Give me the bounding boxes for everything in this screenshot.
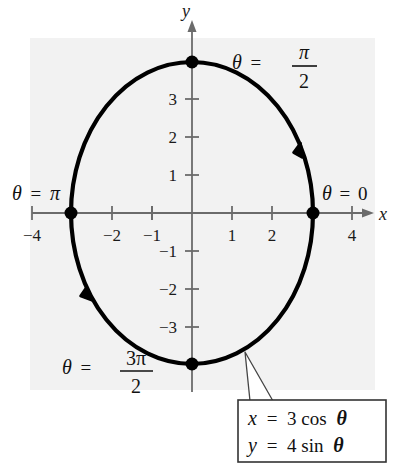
- equals-sign: =: [251, 52, 262, 73]
- equation-x-variable: x: [247, 407, 257, 429]
- theta-0-value: 0: [358, 183, 368, 204]
- x-tick-label--2: −2: [103, 226, 121, 245]
- y-axis-arrowhead: [188, 20, 197, 32]
- y-tick-label-3: 3: [169, 90, 178, 109]
- equation-x-equals: =: [267, 408, 278, 429]
- equals-sign: =: [340, 183, 351, 204]
- equation-y-expression: 4 sin: [287, 435, 324, 456]
- equation-x-expression: 3 cos: [287, 408, 327, 429]
- point-theta-pi: [65, 207, 78, 220]
- theta-symbol: θ: [232, 51, 242, 73]
- y-tick-label--3: −3: [159, 318, 177, 337]
- plot-panel-background: [30, 38, 375, 390]
- theta-symbol: θ: [12, 182, 22, 204]
- equation-callout-box: x = 3 cos θ y = 4 sin θ: [238, 400, 386, 462]
- theta-pi-value: π: [50, 182, 61, 204]
- x-tick-label-2: 2: [268, 226, 277, 245]
- point-theta-three-half-pi: [186, 358, 199, 371]
- y-tick-label--1: −1: [159, 242, 177, 261]
- x-tick-label-4: 4: [348, 226, 357, 245]
- fraction-denominator-2: 2: [131, 375, 141, 397]
- svg-text:θ = π: θ = π: [12, 182, 61, 204]
- point-theta-0: [307, 207, 320, 220]
- x-axis-label: x: [378, 204, 387, 224]
- x-tick-label-1: 1: [228, 226, 237, 245]
- y-axis-label: y: [180, 1, 190, 21]
- svg-text:θ = 0: θ = 0: [322, 182, 368, 204]
- y-tick-label--2: −2: [159, 280, 177, 299]
- equation-y-theta: θ: [333, 434, 344, 456]
- equation-x-theta: θ: [336, 407, 347, 429]
- equals-sign: =: [31, 183, 42, 204]
- theta-symbol: θ: [322, 182, 332, 204]
- equation-y-variable: y: [246, 434, 257, 457]
- figure-svg: −4 −2 −1 1 2 4 3 2 1 −1 −2 −3 x y: [0, 0, 404, 466]
- parametric-ellipse-figure: −4 −2 −1 1 2 4 3 2 1 −1 −2 −3 x y: [0, 0, 404, 466]
- y-tick-label-2: 2: [169, 128, 178, 147]
- x-tick-label--4: −4: [23, 226, 42, 245]
- equation-y-equals: =: [267, 435, 278, 456]
- theta-symbol: θ: [62, 356, 72, 378]
- y-tick-label-1: 1: [169, 166, 178, 185]
- fraction-numerator-pi: π: [299, 41, 310, 63]
- fraction-numerator-3pi: 3π: [126, 347, 146, 369]
- fraction-denominator-2: 2: [299, 70, 309, 92]
- equals-sign: =: [81, 357, 92, 378]
- point-theta-half-pi: [186, 56, 199, 69]
- annotation-theta-0: θ = 0: [322, 182, 368, 204]
- annotation-theta-pi: θ = π: [12, 182, 61, 204]
